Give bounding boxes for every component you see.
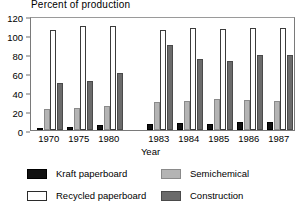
chart-title: Percent of production xyxy=(31,0,130,10)
bar-constr-1975 xyxy=(87,81,93,130)
bar-semi-1987 xyxy=(274,101,280,130)
bar-kraft-1983 xyxy=(147,124,153,130)
y-axis-tick-label: 120 xyxy=(7,13,23,22)
y-axis-tick-mark xyxy=(26,131,30,132)
bar-kraft-1980 xyxy=(97,125,103,130)
chart-legend: Kraft paperboardSemichemicalRecycled pap… xyxy=(0,168,301,213)
plot-area xyxy=(30,17,295,131)
bar-semi-1986 xyxy=(244,100,250,130)
bar-recycled-1986 xyxy=(250,28,256,130)
bar-recycled-1975 xyxy=(80,26,86,131)
bar-semi-1983 xyxy=(154,102,160,130)
legend-item-recycled[interactable]: Recycled paperboard xyxy=(27,190,146,201)
bar-constr-1984 xyxy=(197,59,203,130)
legend-item-semi[interactable]: Semichemical xyxy=(161,168,249,179)
bar-constr-1980 xyxy=(117,73,123,130)
legend-item-kraft[interactable]: Kraft paperboard xyxy=(27,168,127,179)
bar-semi-1985 xyxy=(214,99,220,130)
bar-kraft-1984 xyxy=(177,123,183,130)
bars-layer xyxy=(31,18,294,130)
y-axis-tick-label: 20 xyxy=(12,108,23,117)
bar-kraft-1975 xyxy=(67,127,73,130)
x-axis-tick-label: 1985 xyxy=(208,133,229,144)
bar-semi-1980 xyxy=(104,106,110,130)
legend-swatch-semi-icon xyxy=(161,169,181,179)
bar-kraft-1986 xyxy=(237,122,243,130)
y-axis-tick-label: 40 xyxy=(12,89,23,98)
legend-item-constr[interactable]: Construction xyxy=(161,190,243,201)
y-axis: 020406080100120 xyxy=(0,17,30,132)
bar-recycled-1984 xyxy=(190,28,196,130)
y-axis-tick-label: 60 xyxy=(12,70,23,79)
bar-recycled-1987 xyxy=(280,28,286,130)
legend-label: Construction xyxy=(190,190,243,201)
bar-recycled-1985 xyxy=(220,29,226,130)
bar-kraft-1987 xyxy=(267,122,273,130)
bar-recycled-1980 xyxy=(110,26,116,131)
legend-label: Kraft paperboard xyxy=(56,168,127,179)
bar-semi-1970 xyxy=(44,109,50,130)
legend-label: Semichemical xyxy=(190,168,249,179)
bar-semi-1975 xyxy=(74,108,80,130)
bar-chart: Percent of production 020406080100120 19… xyxy=(0,0,301,213)
x-axis-tick-label: 1970 xyxy=(38,133,59,144)
legend-swatch-recycled-icon xyxy=(27,191,47,201)
bar-constr-1987 xyxy=(287,55,293,130)
y-axis-tick-label: 100 xyxy=(7,32,23,41)
bar-constr-1970 xyxy=(57,83,63,131)
x-axis-tick-label: 1986 xyxy=(238,133,259,144)
x-axis-tick-label: 1983 xyxy=(148,133,169,144)
bar-kraft-1985 xyxy=(207,124,213,130)
bar-kraft-1970 xyxy=(37,128,43,130)
x-axis-tick-label: 1984 xyxy=(178,133,199,144)
legend-swatch-constr-icon xyxy=(161,191,181,201)
bar-constr-1983 xyxy=(167,45,173,130)
x-axis-tick-label: 1980 xyxy=(98,133,119,144)
bar-recycled-1970 xyxy=(50,30,56,130)
bar-recycled-1983 xyxy=(160,30,166,130)
y-axis-tick-label: 0 xyxy=(18,127,23,136)
legend-label: Recycled paperboard xyxy=(56,190,146,201)
x-axis-labels: 19701975198019831984198519861987 xyxy=(30,133,295,147)
bar-semi-1984 xyxy=(184,101,190,130)
y-axis-tick-label: 80 xyxy=(12,51,23,60)
legend-swatch-kraft-icon xyxy=(27,169,47,179)
bar-constr-1985 xyxy=(227,61,233,130)
bar-constr-1986 xyxy=(257,55,263,130)
x-axis-tick-label: 1987 xyxy=(268,133,289,144)
x-axis-tick-label: 1975 xyxy=(68,133,89,144)
x-axis-title: Year xyxy=(0,146,301,157)
